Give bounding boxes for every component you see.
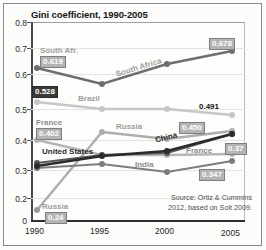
series-label-united-states: United States (42, 147, 93, 156)
ytick-label-0-3: 0.3 (1, 166, 27, 176)
source-note: Source: Ortiz & Cummins 2012, based on S… (168, 193, 252, 213)
xtick-label-1995: 1995 (90, 226, 109, 236)
plot-area: South Afr. Brazil France Russia United S… (31, 22, 245, 222)
series-label-russia-left: Russia (42, 202, 68, 211)
series-label-france-right: France (186, 146, 212, 155)
ytick-label-0-4: 0.4 (1, 136, 27, 146)
series-label-russia-mid: Russia (116, 122, 142, 131)
source-line-2: 2012, based on Solt 2009. (168, 203, 252, 213)
ytick-label-0-6: 0.6 (1, 70, 27, 80)
ytick-label-0-2: 0.2 (1, 194, 27, 204)
ytick-label-0-7: 0.7 (1, 44, 27, 54)
series-label-brazil: Brazil (78, 94, 100, 103)
ytick-label-0-8: 0.8 (1, 18, 27, 28)
value-label-russia-1990: 0.24 (45, 212, 67, 224)
value-label-south-africa-2005: 0.678 (209, 38, 235, 50)
value-label-france-1990: 0.402 (36, 128, 62, 140)
ytick-label-0-5: 0.5 (1, 105, 27, 115)
value-label-india-2005: 0.347 (199, 169, 225, 181)
chart-figure: Gini coefficient, 1990-2005 0.8 0.7 0.6 … (0, 0, 266, 250)
value-label-russia-2005: 0.450 (179, 122, 205, 134)
value-label-brazil-2005: 0.491 (197, 102, 221, 112)
chart-title: Gini coefficient, 1990-2005 (31, 9, 148, 20)
value-label-france-2005: 0.37 (225, 143, 247, 155)
ytick-label-0: 0 (1, 216, 27, 226)
xtick-label-1990: 1990 (25, 226, 44, 236)
series-label-france-left: France (36, 118, 62, 127)
source-line-1: Source: Ortiz & Cummins (168, 193, 252, 203)
xtick-label-2000: 2000 (155, 226, 174, 236)
series-label-south-afr: South Afr. (40, 46, 78, 55)
value-label-brazil-1990: 0.528 (32, 86, 58, 98)
series-label-india: India (135, 160, 154, 169)
value-label-south-africa-1990: 0.619 (40, 56, 66, 68)
xtick-label-2005: 2005 (221, 228, 240, 238)
